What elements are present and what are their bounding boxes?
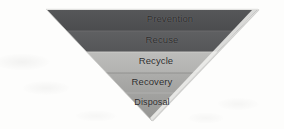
- level-label-prevention: Prevention: [120, 13, 220, 24]
- level-label-recuse: Recuse: [112, 34, 212, 45]
- level-label-disposal: Disposal: [102, 97, 202, 107]
- level-label-recycle: Recycle: [106, 55, 206, 66]
- level-label-recovery: Recovery: [102, 76, 202, 87]
- inverted-pyramid-diagram: Prevention Recuse Recycle Recovery Dispo…: [0, 0, 284, 129]
